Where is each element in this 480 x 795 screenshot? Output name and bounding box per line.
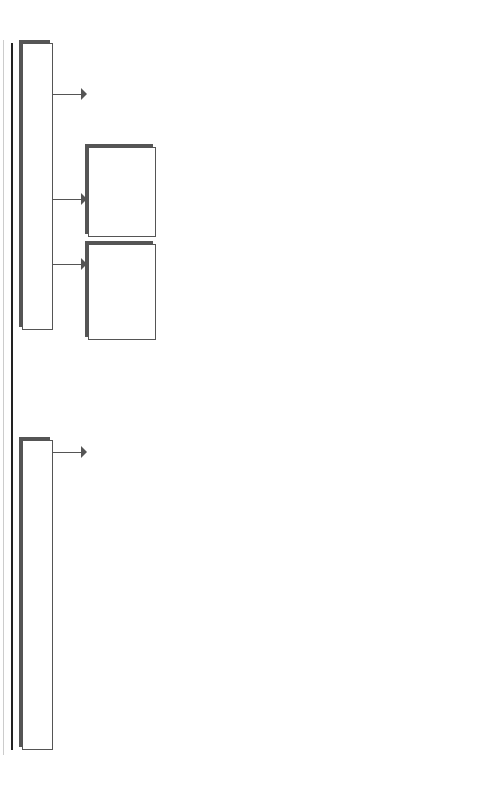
arrow-icon (81, 446, 87, 458)
strategies-menu-box (88, 147, 156, 237)
arrow-icon (81, 258, 87, 270)
arrow-icon (81, 88, 87, 100)
frame-light-rule (3, 40, 4, 755)
frame-rule (11, 43, 13, 750)
techniques-header (22, 43, 53, 330)
knowledge-header (22, 440, 53, 750)
connector-strategies (53, 199, 83, 200)
objectives-activities-menu-box (88, 244, 156, 340)
connector-sequences (53, 94, 83, 95)
connector-knowledge (53, 452, 83, 453)
arrow-icon (81, 193, 87, 205)
connector-objectives (53, 264, 83, 265)
diagram-canvas (0, 0, 480, 795)
